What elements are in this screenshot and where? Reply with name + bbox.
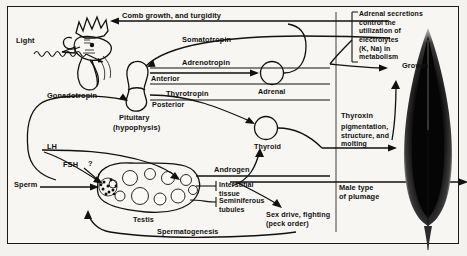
label-adrenal: Adrenal bbox=[258, 88, 285, 96]
label-spermatogenesis: Spermatogenesis bbox=[157, 228, 218, 236]
leader-question bbox=[84, 168, 100, 182]
diagram-page: Light Comb growth, and turgidity Somatot… bbox=[0, 0, 467, 256]
label-male-plumage: Male type of plumage bbox=[339, 183, 379, 202]
label-hypophysis: (hypophysis) bbox=[113, 124, 160, 132]
rooster-head-icon bbox=[62, 17, 111, 90]
label-thyroxin: Thyroxin bbox=[341, 112, 373, 120]
label-thyroid: Thyroid bbox=[254, 143, 281, 151]
label-seminiferous-tubules: Seminiferous tubules bbox=[219, 197, 265, 214]
label-somatotropin: Somatotropin bbox=[182, 36, 231, 44]
label-testis: Testis bbox=[133, 216, 154, 224]
label-lh: LH bbox=[47, 143, 57, 151]
label-interstitial-tissue: Interstitial tissue bbox=[219, 181, 254, 198]
label-fsh: FSH bbox=[63, 161, 78, 169]
label-pituitary: Pituitary bbox=[119, 114, 149, 122]
label-androgen: Androgen bbox=[214, 166, 250, 174]
bracket-seminiferous-tubules bbox=[190, 197, 216, 207]
label-sex-drive: Sex drive, fighting (peck order) bbox=[266, 210, 330, 228]
arrow-adrenal-output bbox=[284, 24, 306, 73]
label-posterior: Posterior bbox=[152, 101, 184, 109]
arrow-sperm bbox=[40, 184, 99, 191]
label-sperm: Sperm bbox=[14, 181, 38, 189]
label-growth: Growth bbox=[402, 62, 428, 70]
pituitary-gland-shape bbox=[126, 61, 148, 111]
label-gonadotropin: Gonadotropin bbox=[47, 92, 97, 100]
label-adrenal-note: Adrenal secretions control the utilizati… bbox=[359, 10, 423, 62]
thyroid-gland-shape bbox=[255, 117, 278, 140]
label-anterior: Anterior bbox=[151, 75, 180, 83]
bracket-adrenal-note bbox=[330, 12, 358, 64]
label-comb-growth: Comb growth, and turgidity bbox=[122, 12, 221, 20]
adrenal-gland-shape bbox=[261, 62, 284, 85]
label-question: ? bbox=[88, 160, 93, 168]
label-thyrotropin: Thyrotropin bbox=[166, 90, 209, 98]
label-light: Light bbox=[16, 37, 35, 45]
label-thyroxin-effects: pigmentation, structure, and molting bbox=[341, 123, 389, 149]
label-adrenotropin: Adrenotropin bbox=[182, 59, 230, 67]
testis-shape bbox=[97, 163, 199, 213]
